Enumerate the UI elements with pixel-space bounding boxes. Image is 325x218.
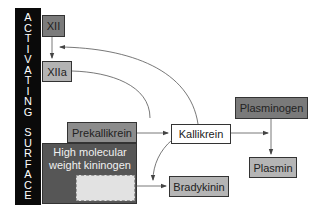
arrow-kallikrein-feedback	[60, 47, 198, 124]
arrow-kallikrein-cleaves-hmwk	[153, 140, 172, 180]
arrow-xiia-activates	[72, 71, 150, 118]
arrows-layer	[0, 0, 325, 218]
